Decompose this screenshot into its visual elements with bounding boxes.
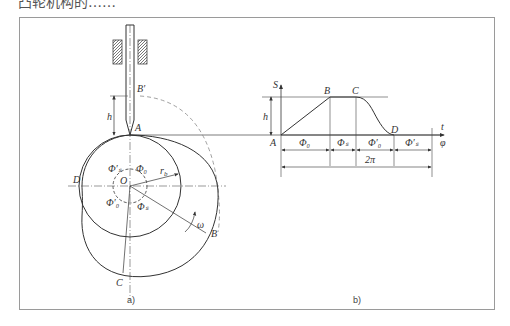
label-c-b: C <box>352 85 359 96</box>
label-d-b: D <box>390 124 399 135</box>
panel-b: S t φ h A B C D Φ₀ Φₛ Φ′₀ Φ′ₛ 2π b) <box>262 79 446 305</box>
rotation-arrow-icon <box>185 212 195 232</box>
segment-phi0: Φ₀ <box>299 137 311 148</box>
total-2pi: 2π <box>365 154 376 165</box>
label-a-a: A <box>134 122 142 133</box>
label-b-prime: B′ <box>137 83 146 94</box>
guide-block-right <box>138 40 147 64</box>
cam-diagram: h B′ A rb ω O D B C Φ′ₛ Φ₀ Φ′₀ Φₛ a) <box>0 0 510 326</box>
dashed-arc-b-prime <box>140 96 219 232</box>
label-phis: Φₛ <box>137 201 149 212</box>
segment-phis: Φₛ <box>337 137 349 148</box>
caption-b: b) <box>353 295 361 305</box>
segment-phi0-prime: Φ′₀ <box>368 137 382 148</box>
caption-a: a) <box>127 295 135 305</box>
label-phi0: Φ₀ <box>136 163 148 174</box>
label-omega: ω <box>197 219 204 230</box>
label-h-b: h <box>263 111 268 122</box>
label-s: S <box>273 79 278 90</box>
label-o: O <box>120 175 127 186</box>
label-phis-prime-top: Φ′ₛ <box>108 163 122 174</box>
label-rb: rb <box>160 165 168 178</box>
label-phi0-prime: Φ′₀ <box>106 197 120 208</box>
label-d-a: D <box>72 174 81 185</box>
cam-profile <box>82 135 218 277</box>
label-phi: φ <box>440 137 446 148</box>
label-a-b: A <box>269 137 277 148</box>
guide-block-left <box>113 40 122 64</box>
label-h-a: h <box>107 111 112 122</box>
label-c-a: C <box>116 277 123 288</box>
label-b-a: B <box>211 228 217 239</box>
radius-rb <box>130 174 178 186</box>
label-t: t <box>441 121 444 132</box>
line-oc <box>123 186 130 273</box>
segment-phis-prime: Φ′ₛ <box>405 137 419 148</box>
panel-a: h B′ A rb ω O D B C Φ′ₛ Φ₀ Φ′₀ Φₛ a) <box>68 25 440 305</box>
displacement-curve <box>281 97 394 135</box>
label-b-b: B <box>324 85 330 96</box>
